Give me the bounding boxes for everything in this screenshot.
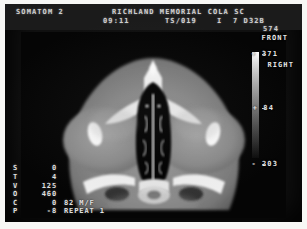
crt-display: SOMATOM 2 RICHLAND MEMORIAL COLA SC 09:1… [5, 4, 302, 222]
parameter-key: S [13, 164, 23, 173]
parameter-value: -8 [23, 207, 57, 216]
parameter-value: 460 [23, 190, 57, 199]
parameter-extra [57, 173, 64, 182]
parameter-key: P [13, 207, 23, 216]
parameter-row: T4 [13, 173, 163, 182]
photograph-frame: SOMATOM 2 RICHLAND MEMORIAL COLA SC 09:1… [0, 0, 307, 229]
parameter-row: V125 [13, 182, 163, 191]
slice-code-label: I 7 D32B [217, 17, 265, 25]
parameter-value: 125 [23, 182, 57, 191]
parameter-key: T [13, 173, 23, 182]
parameter-row: S0 [13, 164, 163, 173]
facility-name-label: RICHLAND MEMORIAL COLA SC [112, 8, 245, 16]
window-lower-value: - 203 [251, 160, 278, 168]
window-center-value: + 84 [253, 104, 274, 112]
parameter-row: O460 [13, 190, 163, 199]
parameter-extra: REPEAT 1 [57, 207, 105, 216]
orientation-front-label: FRONT [261, 34, 288, 42]
scan-parameter-block: S0T4V125O460C082 M/FP-8REPEAT 1 [13, 164, 163, 216]
acquisition-time-label: 09:11 [103, 17, 130, 25]
parameter-row: P-8REPEAT 1 [13, 207, 163, 216]
parameter-key: O [13, 190, 23, 199]
scanner-header-band: SOMATOM 2 RICHLAND MEMORIAL COLA SC 09:1… [5, 4, 302, 30]
parameter-key: V [13, 182, 23, 191]
series-id-label: TS/019 [165, 17, 197, 25]
orientation-right-label: RIGHT [267, 61, 294, 69]
scanner-model-label: SOMATOM 2 [16, 8, 64, 16]
window-upper-value: + 371 [251, 50, 278, 58]
parameter-extra [57, 164, 64, 173]
parameter-extra [57, 182, 64, 191]
parameter-value: 4 [23, 173, 57, 182]
parameter-value: 0 [23, 164, 57, 173]
parameter-extra [57, 190, 64, 199]
